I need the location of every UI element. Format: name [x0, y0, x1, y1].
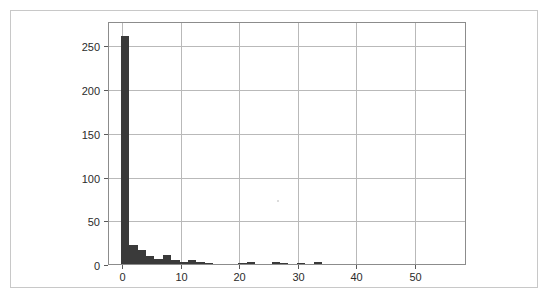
x-tick-label: 20 — [233, 271, 245, 283]
histogram-bar — [163, 255, 171, 265]
x-tick-label: 40 — [350, 271, 362, 283]
y-tick-label: 250 — [82, 41, 100, 53]
histogram-plot-svg: 050100150200250 01020304050 — [0, 0, 549, 299]
x-tick-label: 50 — [409, 271, 421, 283]
histogram-bar — [138, 250, 146, 265]
histogram-bar — [121, 36, 129, 265]
y-tick-label: 50 — [88, 216, 100, 228]
x-tick-label: 30 — [292, 271, 304, 283]
y-tick-label: 100 — [82, 173, 100, 185]
x-tick-label: 0 — [119, 271, 125, 283]
y-tick-label: 150 — [82, 129, 100, 141]
histogram-figure: 050100150200250 01020304050 — [0, 0, 549, 299]
histogram-bar — [129, 245, 137, 265]
scan-artifact-mark — [277, 200, 279, 202]
y-tick-label: 0 — [94, 260, 100, 272]
histogram-bar — [146, 256, 154, 265]
y-tick-label: 200 — [82, 85, 100, 97]
plot-background — [108, 22, 466, 265]
y-axis-ticks: 050100150200250 — [82, 41, 108, 272]
x-axis-ticks: 01020304050 — [119, 265, 421, 283]
x-tick-label: 10 — [175, 271, 187, 283]
